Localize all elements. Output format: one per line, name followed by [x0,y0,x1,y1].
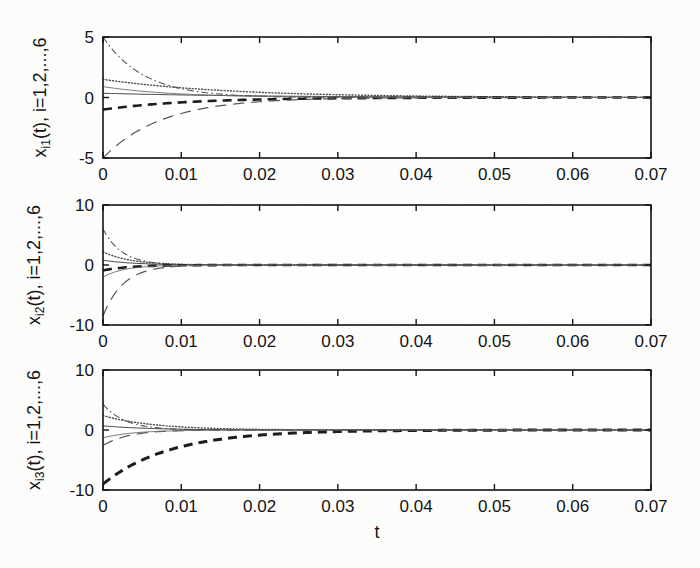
y-axis-label-rest-0: (t), i=1,2,...,6 [30,38,50,140]
y-tick-label-1-0: -10 [69,316,94,335]
x-tick-label-0-3: 0.03 [321,165,354,184]
y-axis-label-base-2: x [24,481,44,490]
x-tick-label-2-7: 0.07 [634,497,667,516]
x-tick-label-0-7: 0.07 [634,165,667,184]
x-tick-label-2-1: 0.01 [165,497,198,516]
y-tick-label-0-2: 5 [85,28,94,47]
x-tick-label-1-1: 0.01 [165,332,198,351]
y-axis-label-base-1: x [24,316,44,325]
x-tick-label-2-0: 0 [98,497,107,516]
y-tick-label-2-2: 10 [75,361,94,380]
y-axis-label-rest-2: (t), i=1,2,...,6 [24,370,44,472]
y-axis-label-0: xi1(t), i=1,2,...,6 [30,38,53,158]
x-tick-label-2-4: 0.04 [400,497,433,516]
x-tick-label-2-3: 0.03 [321,497,354,516]
x-tick-label-2-2: 0.02 [243,497,276,516]
figure-canvas: 00.010.020.030.040.050.060.07-505xi1(t),… [0,0,700,568]
x-tick-label-0-1: 0.01 [165,165,198,184]
y-tick-label-0-1: 0 [85,89,94,108]
y-tick-label-2-1: 0 [85,421,94,440]
x-tick-label-1-5: 0.05 [478,332,511,351]
x-tick-label-0-4: 0.04 [400,165,433,184]
panel-2: 00.010.020.030.040.050.060.07-10010xi3(t… [24,361,668,542]
y-tick-label-1-1: 0 [85,256,94,275]
y-axis-label-1: xi2(t), i=1,2,...,6 [24,205,47,325]
multi-panel-plot: 00.010.020.030.040.050.060.07-505xi1(t),… [0,0,700,568]
panel-1: 00.010.020.030.040.050.060.07-10010xi2(t… [24,196,668,351]
x-tick-label-1-3: 0.03 [321,332,354,351]
y-axis-label-subscript-1: i2 [33,306,47,316]
x-tick-label-1-0: 0 [98,332,107,351]
y-axis-label-2: xi3(t), i=1,2,...,6 [24,370,47,490]
x-tick-label-0-6: 0.06 [556,165,589,184]
y-tick-label-1-2: 10 [75,196,94,215]
x-tick-label-2-6: 0.06 [556,497,589,516]
x-tick-label-2-5: 0.05 [478,497,511,516]
x-tick-label-1-6: 0.06 [556,332,589,351]
y-axis-label-subscript-2: i3 [33,471,47,481]
x-tick-label-1-2: 0.02 [243,332,276,351]
x-tick-label-0-2: 0.02 [243,165,276,184]
y-tick-label-0-0: -5 [79,149,94,168]
y-axis-label-subscript-0: i1 [39,139,53,149]
x-axis-label: t [374,522,379,542]
x-tick-label-0-5: 0.05 [478,165,511,184]
y-tick-label-2-0: -10 [69,481,94,500]
y-axis-label-rest-1: (t), i=1,2,...,6 [24,205,44,307]
x-tick-label-1-7: 0.07 [634,332,667,351]
y-axis-label-base-0: x [30,148,50,157]
x-tick-label-0-0: 0 [98,165,107,184]
panel-0: 00.010.020.030.040.050.060.07-505xi1(t),… [30,28,668,184]
x-tick-label-1-4: 0.04 [400,332,433,351]
